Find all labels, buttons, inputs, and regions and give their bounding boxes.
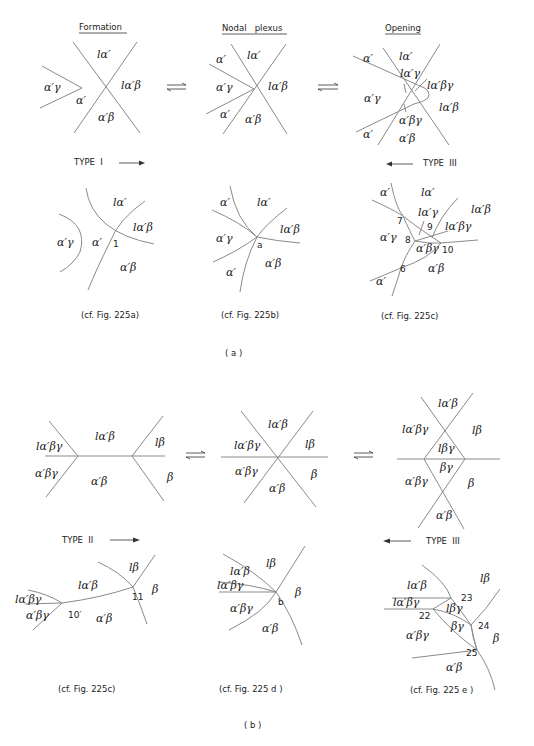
svg-text:lα′β: lα′β [95, 430, 115, 443]
svg-text:TYPE I: TYPE I [73, 157, 103, 167]
svg-text:α′: α′ [376, 275, 386, 288]
svg-text:1: 1 [113, 239, 119, 249]
svg-text:lα′β: lα′β [268, 418, 288, 431]
svg-text:lβ: lβ [155, 436, 165, 449]
svg-text:24: 24 [478, 621, 490, 631]
svg-text:α′: α′ [220, 108, 230, 121]
svg-text:lα′βγ: lα′βγ [402, 423, 429, 436]
svg-text:lα′β: lα′β [438, 397, 458, 410]
svg-text:α′βγ: α′βγ [405, 475, 428, 488]
diagram-a-225b: α′ lα′ lα′β α′γ α′ α′β a [212, 186, 300, 292]
svg-text:lα′βγ: lα′βγ [393, 596, 420, 609]
part-b-label: ( b ) [244, 720, 261, 730]
svg-text:α′β: α′β [91, 475, 107, 488]
svg-text:lβ: lβ [472, 424, 482, 437]
header-formation: Formation [79, 22, 127, 33]
svg-text:lβγ: lβγ [438, 442, 455, 455]
svg-text:9: 9 [427, 222, 433, 232]
caption-225a: (cf. Fig. 225a) [81, 310, 139, 320]
equilibrium-arrows-icon [354, 451, 373, 459]
svg-text:α′β: α′β [265, 257, 281, 270]
svg-text:lα′: lα′ [247, 49, 261, 62]
caption-225e: (cf. Fig. 225 e ) [410, 685, 473, 695]
svg-text:23: 23 [461, 593, 472, 603]
caption-225b: (cf. Fig. 225b) [221, 310, 279, 320]
diagram-a-nodal-plexus: α′ lα′ α′γ lα′β α′ α′β [206, 44, 288, 134]
type-iii-label: TYPE III [386, 158, 457, 168]
svg-text:lα′: lα′ [257, 196, 271, 209]
svg-text:α′β: α′β [436, 509, 452, 522]
svg-text:α′β: α′β [399, 132, 415, 145]
caption-225d: (cf. Fig. 225 d ) [219, 684, 283, 694]
svg-text:α′γ: α′γ [57, 236, 74, 249]
svg-text:TYPE III: TYPE III [422, 158, 457, 168]
equilibrium-arrows-icon [186, 451, 205, 459]
svg-text:TYPE II: TYPE II [61, 535, 93, 545]
svg-text:Formation: Formation [79, 22, 122, 32]
svg-text:lα′: lα′ [399, 50, 413, 63]
caption-225c-b: (cf. Fig. 225c) [58, 684, 115, 694]
svg-text:α′β: α′β [446, 661, 462, 674]
svg-text:lα′β: lα′β [78, 579, 98, 592]
svg-text:βγ: βγ [439, 461, 453, 474]
diagram-b-225e: lβ lα′β lα′βγ lβγ βγ α′βγ β α′β 23 22 24… [384, 565, 500, 690]
header-opening: Opening [385, 23, 421, 34]
svg-text:lα′β: lα′β [439, 101, 459, 114]
svg-text:lα′: lα′ [97, 48, 111, 61]
svg-text:lβ: lβ [266, 557, 276, 570]
svg-text:lα′βγ: lα′βγ [445, 220, 472, 233]
svg-text:α′β: α′β [96, 612, 112, 625]
svg-text:b: b [278, 597, 284, 607]
svg-text:α′: α′ [363, 128, 373, 141]
svg-text:α′βγ: α′βγ [35, 467, 58, 480]
svg-text:lβ: lβ [129, 561, 139, 574]
diagram-a-225c: α′ lα′ lα′γ lα′β lα′βγ α′γ α′βγ α′β α′ 7… [370, 183, 491, 296]
svg-text:Opening: Opening [385, 23, 421, 33]
svg-text:lα′βγ: lα′βγ [36, 440, 63, 453]
svg-text:α′βγ: α′βγ [235, 465, 258, 478]
svg-text:8: 8 [405, 235, 411, 245]
svg-text:α′β: α′β [428, 262, 444, 275]
svg-text:22: 22 [419, 611, 430, 621]
svg-text:α′βγ: α′βγ [416, 242, 439, 255]
svg-text:α′γ: α′γ [216, 232, 233, 245]
svg-text:α′β: α′β [98, 111, 114, 124]
svg-text:α′: α′ [220, 196, 230, 209]
diagram-b-formation: lα′βγ lα′β lβ α′βγ α′β β [35, 416, 173, 501]
svg-text:α′βγ: α′βγ [230, 602, 253, 615]
svg-text:α′γ: α′γ [364, 92, 381, 105]
svg-text:Nodal plexus: Nodal plexus [222, 23, 283, 33]
part-a-label: ( a ) [225, 348, 242, 358]
svg-text:β: β [310, 468, 317, 481]
svg-text:α′β: α′β [262, 622, 278, 635]
svg-text:lα′β: lα′β [230, 565, 250, 578]
svg-text:lα′βγ: lα′βγ [217, 579, 244, 592]
svg-text:11: 11 [132, 592, 143, 602]
svg-text:β: β [166, 471, 173, 484]
svg-text:β: β [294, 586, 301, 599]
equilibrium-arrows-icon [318, 83, 338, 91]
svg-text:α′: α′ [226, 266, 236, 279]
caption-225c: (cf. Fig. 225c) [381, 311, 438, 321]
svg-text:α′γ: α′γ [380, 231, 397, 244]
diagram-a-225a: lα′ lα′β α′γ α′ α′β 1 [57, 188, 154, 290]
svg-text:lα′βγ: lα′βγ [15, 593, 42, 606]
svg-text:α′βγ: α′βγ [399, 114, 422, 127]
svg-text:α′γ: α′γ [216, 81, 233, 94]
svg-text:lβ: lβ [480, 572, 490, 585]
svg-text:a: a [257, 240, 263, 250]
svg-text:7: 7 [397, 216, 403, 226]
svg-text:α′: α′ [363, 52, 373, 65]
svg-text:25: 25 [466, 648, 477, 658]
svg-text:α′: α′ [380, 186, 390, 199]
diagram-a-opening: α′ lα′ lα′γ lα′βγ α′γ lα′β α′βγ α′ α′β [353, 44, 459, 145]
svg-text:α′β: α′β [120, 261, 136, 274]
diagram-b-225d: lβ lα′β lα′βγ β α′βγ α′β b [217, 546, 305, 645]
diagram-b-225c: lβ lα′β β lα′βγ α′βγ α′β 11 10′ [15, 555, 158, 630]
svg-text:lα′γ: lα′γ [418, 206, 438, 219]
svg-text:lα′β: lα′β [268, 80, 288, 93]
diagram-b-nodal-plexus: lα′β lα′βγ lβ α′βγ β α′β [221, 411, 328, 507]
svg-text:lβγ: lβγ [446, 602, 463, 615]
svg-text:α′β: α′β [269, 482, 285, 495]
svg-text:lα′βγ: lα′βγ [234, 439, 261, 452]
